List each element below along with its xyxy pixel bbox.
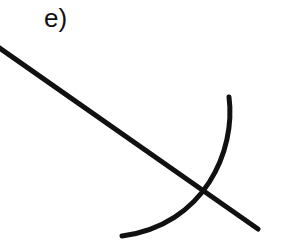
straight-line (0, 47, 258, 229)
diagram-canvas (0, 0, 293, 247)
curved-arc (122, 97, 230, 236)
